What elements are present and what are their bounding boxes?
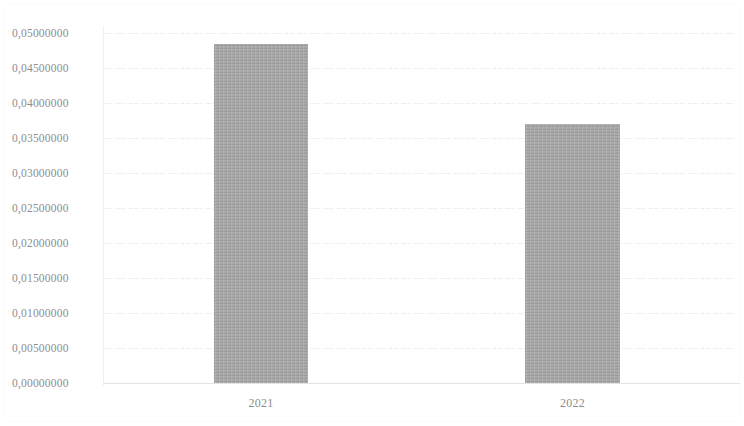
y-tick-label: 0,00500000 <box>4 342 100 354</box>
x-tick-label-2021: 2021 <box>214 396 308 410</box>
x-axis-line <box>103 383 740 384</box>
bar-2022 <box>525 124 620 383</box>
y-tick-label: 0,04500000 <box>4 62 100 74</box>
gridline <box>103 138 734 139</box>
gridline <box>103 33 734 34</box>
y-tick-label: 0,01500000 <box>4 272 100 284</box>
y-tick-label: 0,03500000 <box>4 132 100 144</box>
bar-chart: 0,05000000 0,04500000 0,04000000 0,03500… <box>0 0 744 426</box>
y-axis-label-group: 0,05000000 0,04500000 0,04000000 0,03500… <box>0 33 100 383</box>
y-tick-label: 0,02500000 <box>4 202 100 214</box>
gridline <box>103 348 734 349</box>
y-tick-label: 0,02000000 <box>4 237 100 249</box>
x-tick-label-2022: 2022 <box>525 396 620 410</box>
bar-2021 <box>214 44 308 383</box>
gridline <box>103 313 734 314</box>
gridline <box>103 243 734 244</box>
gridline <box>103 278 734 279</box>
plot-area <box>103 33 734 383</box>
gridline <box>103 103 734 104</box>
y-tick-label: 0,00000000 <box>4 377 100 389</box>
y-tick-label: 0,04000000 <box>4 97 100 109</box>
gridline <box>103 68 734 69</box>
y-tick-label: 0,03000000 <box>4 167 100 179</box>
gridline <box>103 208 734 209</box>
y-tick-label: 0,05000000 <box>4 27 100 39</box>
gridline <box>103 173 734 174</box>
y-tick-label: 0,01000000 <box>4 307 100 319</box>
